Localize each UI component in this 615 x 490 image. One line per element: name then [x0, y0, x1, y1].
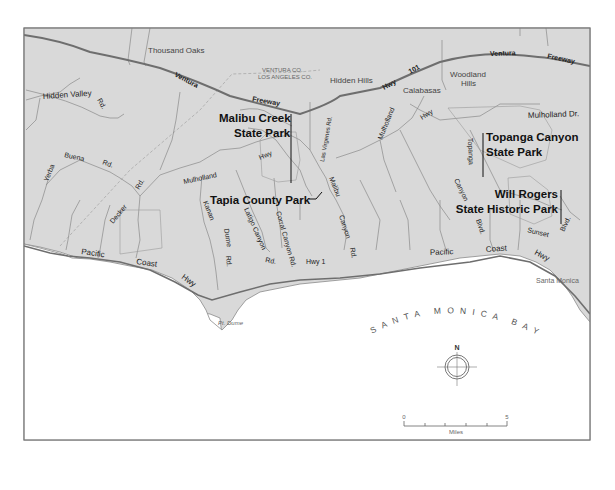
scale-unit-label: Miles	[449, 429, 463, 435]
map-canvas: Thousand Oaks VENTURA CO. LOS ANGELES CO…	[0, 0, 615, 490]
place-calabasas: Calabasas	[403, 86, 441, 95]
county-label-ventura: VENTURA CO.	[262, 67, 303, 73]
compass-north-label: N	[454, 344, 459, 351]
road-label-pch-coast-right: Coast	[486, 244, 508, 254]
place-santa-monica: Santa Monica	[536, 277, 579, 284]
park-label-malibu-creek-1: Malibu Creek	[219, 112, 291, 124]
place-pt-dume: Pt. Dume	[218, 320, 244, 326]
freeway-label-ventura-right: Ventura	[490, 49, 516, 57]
place-thousand-oaks: Thousand Oaks	[148, 46, 204, 55]
place-hidden-hills: Hidden Hills	[330, 76, 373, 85]
park-label-malibu-creek-2: State Park	[234, 127, 291, 139]
road-label-dume-rd: Rd.	[225, 255, 233, 267]
park-label-topanga-1: Topanga Canyon	[486, 131, 578, 143]
park-label-topanga-2: State Park	[486, 146, 543, 158]
road-label-pch-hwy1: Hwy 1	[306, 258, 326, 266]
road-label-pch-pacific-right: Pacific	[430, 247, 454, 257]
place-woodland-hills-1: Woodland	[450, 70, 486, 79]
park-label-will-rogers-1: Will Rogers	[495, 188, 558, 200]
county-label-los-angeles: LOS ANGELES CO.	[258, 74, 312, 80]
park-label-tapia: Tapia County Park	[210, 194, 311, 206]
park-label-will-rogers-2: State Historic Park	[456, 203, 559, 215]
road-label-mulholland-dr: Mulholland Dr.	[528, 109, 579, 120]
place-woodland-hills-2: Hills	[461, 79, 476, 88]
